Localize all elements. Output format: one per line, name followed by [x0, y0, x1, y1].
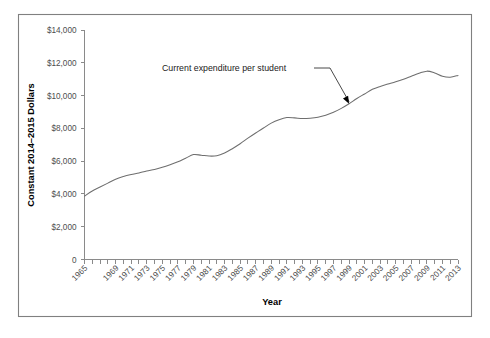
y-axis-tick-label: $2,000 [51, 223, 76, 232]
chart-figure: 0$2,000$4,000$6,000$8,000$10,000$12,000$… [0, 0, 490, 338]
y-axis-tick-label: $4,000 [51, 190, 76, 199]
y-axis-tick-label: 0 [72, 256, 77, 265]
annotation-label: Current expenditure per student [162, 63, 287, 73]
y-axis-tick-label: $8,000 [51, 124, 76, 133]
y-axis-tick-label: $10,000 [47, 92, 77, 101]
y-axis-tick-label: $6,000 [51, 157, 76, 166]
chart-svg: 0$2,000$4,000$6,000$8,000$10,000$12,000$… [0, 0, 490, 338]
x-axis-title: Year [262, 297, 282, 307]
y-axis-tick-label: $14,000 [47, 26, 77, 35]
y-axis-title: Constant 2014–2015 Dollars [26, 83, 36, 207]
y-axis-tick-label: $12,000 [47, 59, 77, 68]
